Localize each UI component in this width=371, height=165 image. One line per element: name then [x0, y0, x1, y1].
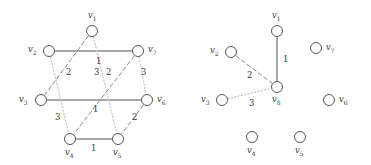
graph-node-v5 [113, 134, 124, 145]
node-label-v2: v2 [28, 45, 37, 56]
edge-weight-v1-v3: 2 [66, 68, 71, 77]
graph-node-v3 [36, 95, 47, 106]
edge-weight-v2-v7: 1 [96, 57, 101, 66]
graph-node-v1 [272, 26, 283, 37]
node-label-v7: v7 [148, 45, 157, 56]
edge-weight-v1-v8: 1 [283, 55, 288, 64]
graph-node-v8 [272, 82, 283, 93]
graph-node-v6 [324, 95, 335, 106]
node-label-v5: v5 [295, 146, 304, 157]
node-label-v1: v1 [272, 11, 281, 22]
edge-weight-v3-v6: 1 [93, 105, 98, 114]
graph-node-v4 [65, 134, 76, 145]
edge-weight-v7-v4: 3 [55, 113, 60, 122]
graph-node-v7 [133, 46, 144, 57]
node-label-v4: v4 [247, 146, 256, 157]
node-label-v4: v4 [65, 148, 74, 159]
node-label-v3: v3 [201, 95, 210, 106]
graph-edge-v2-v8 [236, 56, 272, 83]
graph-node-v1 [87, 26, 98, 37]
edge-weight-v1-v5: 3 [94, 68, 99, 77]
node-label-v5: v5 [113, 148, 122, 159]
node-label-v8: v8 [272, 95, 281, 106]
graph-node-v4 [247, 132, 258, 143]
graph-edge-v1-v3 [45, 36, 89, 95]
graph-node-v2 [44, 46, 55, 57]
graph-node-v2 [226, 47, 237, 58]
graph-edge-v7-v4 [74, 56, 134, 134]
graph-node-v5 [295, 132, 306, 143]
edge-weight-v3-v8: 3 [249, 99, 254, 108]
graph-node-v3 [217, 95, 228, 106]
edge-weight-v2-v8: 2 [247, 71, 252, 80]
node-label-v1: v1 [88, 11, 97, 22]
edge-weight-v4-v5: 1 [91, 144, 96, 153]
node-label-v7: v7 [326, 43, 335, 54]
node-label-v3: v3 [19, 95, 28, 106]
node-label-v6: v6 [339, 95, 348, 106]
graph-node-v6 [142, 95, 153, 106]
edge-weight-v6-v5: 2 [132, 113, 137, 122]
node-label-v6: v6 [157, 95, 166, 106]
graph-node-v7 [311, 43, 322, 54]
graph-edges-layer [0, 0, 371, 165]
edge-weight-v2-v4: 2 [106, 68, 111, 77]
node-label-v2: v2 [210, 46, 219, 57]
figure-canvas: v1v2v7v3v6v4v5111233322v1v2v7v3v8v6v4v51… [0, 0, 371, 165]
edge-weight-v7-v6: 3 [141, 68, 146, 77]
